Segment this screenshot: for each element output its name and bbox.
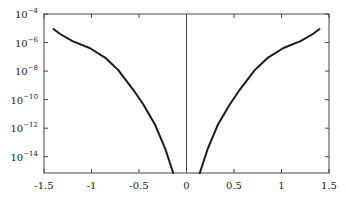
y-tick-label: 10−12 bbox=[10, 121, 38, 134]
x-axis: -1.5-1-0.500.511.5 bbox=[34, 14, 337, 191]
curve-right-branch bbox=[200, 29, 320, 173]
y-tick-label: 10−4 bbox=[15, 7, 39, 20]
x-tick-label: 1 bbox=[278, 180, 284, 191]
y-tick-label: 10−6 bbox=[15, 36, 39, 49]
log-plot: -1.5-1-0.500.511.5 10−410−610−810−1010−1… bbox=[0, 0, 346, 200]
y-tick-label: 10−8 bbox=[15, 64, 38, 77]
curve-left-branch bbox=[54, 29, 174, 173]
x-tick-label: 0.5 bbox=[226, 180, 242, 191]
y-axis: 10−410−610−810−1010−1210−14 bbox=[10, 7, 329, 163]
x-tick-label: -1 bbox=[87, 180, 97, 191]
x-tick-label: -0.5 bbox=[129, 180, 148, 191]
x-tick-label: 1.5 bbox=[321, 180, 337, 191]
x-tick-label: -1.5 bbox=[34, 180, 53, 191]
x-tick-label: 0 bbox=[183, 180, 189, 191]
y-tick-label: 10−10 bbox=[10, 93, 38, 106]
y-tick-label: 10−14 bbox=[10, 150, 38, 163]
